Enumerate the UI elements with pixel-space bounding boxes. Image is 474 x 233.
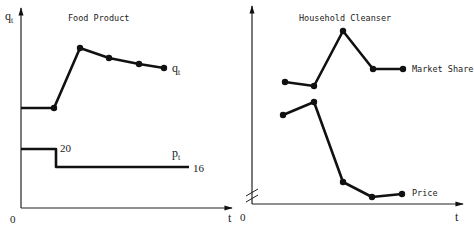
price-label: Price (412, 188, 438, 198)
q-series-label: qt (172, 61, 181, 77)
left-origin-label: 0 (10, 213, 16, 225)
market-share-markers (282, 28, 406, 89)
left-y-axis-label: qt (5, 9, 14, 25)
q-series-line (21, 48, 164, 108)
p-series-line (21, 149, 189, 167)
household-cleanser-panel: Household Cleanser 0 t Market Share Pric… (240, 6, 473, 224)
food-product-panel: qt Food Product 0 t qt 20 16 pt (5, 8, 232, 225)
price-high-label: 20 (60, 142, 72, 154)
chart-figure: qt Food Product 0 t qt 20 16 pt Househol… (0, 0, 474, 233)
left-x-axis-label: t (228, 211, 232, 225)
p-series-label: pt (172, 146, 181, 162)
left-chart-title: Food Product (68, 13, 129, 23)
price-markers (280, 99, 405, 200)
right-x-axis-label: t (455, 210, 459, 224)
right-chart-title: Household Cleanser (299, 13, 391, 23)
market-share-label: Market Share (412, 64, 473, 74)
right-origin-label: 0 (240, 211, 246, 223)
market-share-line (285, 31, 403, 86)
price-low-label: 16 (193, 162, 205, 174)
